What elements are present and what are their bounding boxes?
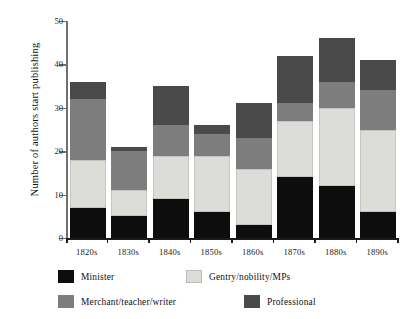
bar-segment-minister [360,212,396,238]
bar-segment-merchant-teacher-writer [319,82,355,108]
bar-segment-gentry-nobility-mps [111,190,147,216]
bar-segment-professional [194,125,230,134]
bar-segment-professional [319,38,355,81]
y-axis-title: Number of authors start publishing [29,20,40,220]
legend-item[interactable]: Minister [58,270,114,283]
x-tick-mark [231,238,233,243]
bar-segment-professional [277,56,313,104]
y-tick-label: 20 [55,146,64,156]
legend-label: Professional [267,297,316,307]
legend-item[interactable]: Merchant/teacher/writer [58,295,176,308]
bar-segment-merchant-teacher-writer [111,151,147,190]
bar-segment-gentry-nobility-mps [236,169,272,225]
chart-legend: MinisterGentry/nobility/MPsMerchant/teac… [58,270,408,316]
x-tick-mark [397,238,399,243]
x-tick-mark [107,238,109,243]
x-tick-mark [190,238,192,243]
stacked-bar [360,60,396,238]
y-axis-line [66,21,68,238]
x-tick-label: 1880s [325,247,347,257]
x-tick-mark [273,238,275,243]
y-tick-label: 50 [55,16,64,26]
x-tick-mark [148,238,150,243]
stacked-bar [153,86,189,238]
bar-segment-merchant-teacher-writer [153,125,189,155]
legend-swatch [186,270,202,283]
x-tick-label: 1860s [242,247,264,257]
bar-segment-minister [111,216,147,238]
legend-swatch [244,295,260,308]
bar-segment-merchant-teacher-writer [236,138,272,168]
stacked-bar [194,125,230,238]
stacked-bar [111,147,147,238]
bar-segment-professional [236,103,272,138]
legend-label: Merchant/teacher/writer [81,297,176,307]
bar-segment-minister [236,225,272,238]
bar-segment-minister [153,199,189,238]
legend-label: Minister [81,272,114,282]
bar-segment-minister [277,177,313,238]
stacked-bar [277,56,313,238]
bar-segment-professional [360,60,396,90]
plot-area: 01020304050 1820s1830s1840s1850s1860s187… [66,21,398,238]
legend-item[interactable]: Professional [244,295,316,308]
bar-segment-gentry-nobility-mps [277,121,313,177]
bar-segment-minister [319,186,355,238]
stacked-bar [70,82,106,238]
x-tick-label: 1830s [117,247,139,257]
bar-segment-gentry-nobility-mps [70,160,106,208]
legend-swatch [58,295,74,308]
bar-segment-professional [153,86,189,125]
x-tick-label: 1890s [366,247,388,257]
y-tick-label: 10 [55,189,64,199]
stacked-bar [236,103,272,238]
x-tick-mark [314,238,316,243]
x-tick-mark [66,238,68,243]
bar-segment-gentry-nobility-mps [319,108,355,186]
bar-segment-merchant-teacher-writer [70,99,106,160]
legend-swatch [58,270,74,283]
y-tick-label: 0 [59,233,63,243]
y-tick-label: 40 [55,59,64,69]
x-tick-mark [356,238,358,243]
x-tick-label: 1820s [76,247,98,257]
y-tick-label: 30 [55,103,64,113]
x-tick-label: 1850s [200,247,222,257]
bar-segment-minister [194,212,230,238]
bar-segment-merchant-teacher-writer [360,90,396,129]
bar-segment-gentry-nobility-mps [194,156,230,212]
legend-label: Gentry/nobility/MPs [209,272,290,282]
bar-segment-gentry-nobility-mps [153,156,189,199]
bar-segment-minister [70,208,106,238]
x-tick-label: 1870s [283,247,305,257]
bar-segment-professional [70,82,106,99]
x-tick-label: 1840s [159,247,181,257]
bar-chart-figure: Number of authors start publishing 01020… [0,0,417,319]
bar-segment-gentry-nobility-mps [360,130,396,212]
stacked-bar [319,38,355,238]
bar-segment-merchant-teacher-writer [277,103,313,120]
legend-item[interactable]: Gentry/nobility/MPs [186,270,290,283]
bar-segment-merchant-teacher-writer [194,134,230,156]
